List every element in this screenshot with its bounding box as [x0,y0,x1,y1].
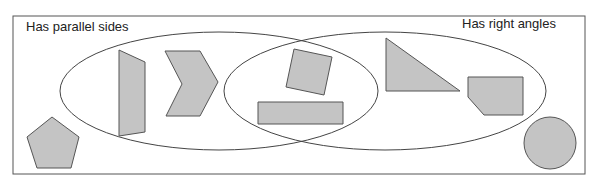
circle-shape [524,117,576,169]
parallel-sides-ellipse [60,32,378,150]
right-triangle-shape [386,38,460,91]
regular-pentagon-shape [27,117,79,168]
rectangle-shape [258,102,343,124]
right-angles-label: Has right angles [462,16,556,31]
trapezoid-shape [119,50,145,136]
chevron-shape [165,51,218,116]
cut-corner-pentagon-shape [468,77,523,115]
parallel-sides-label: Has parallel sides [26,19,129,34]
tilted-square-shape [286,49,332,95]
